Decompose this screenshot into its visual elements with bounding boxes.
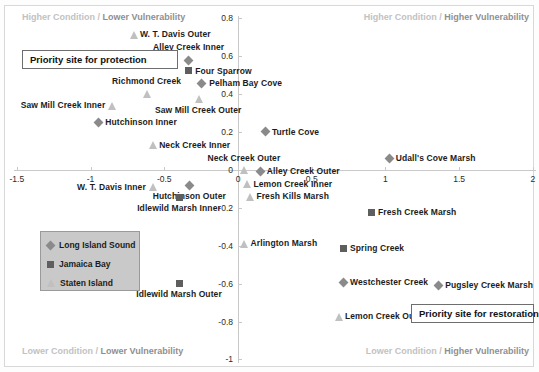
data-point-label: Pelham Bay Cove — [209, 78, 282, 88]
legend: Long Island SoundJamaica BayStaten Islan… — [40, 231, 140, 291]
data-point-label: W. T. Davis Outer — [140, 29, 211, 39]
annotation-protection: Priority site for protection — [22, 50, 178, 69]
legend-marker-triangle — [47, 279, 55, 287]
data-point-label: Saw Mill Creek Inner — [21, 100, 106, 110]
scatter-plot-figure: -1.5-1-0.500.511.520.80.60.40.20-0.2-0.4… — [0, 0, 539, 372]
x-tick-label: 1.5 — [453, 174, 465, 184]
data-point-label: Udall's Cove Marsh — [396, 153, 476, 163]
legend-label: Jamaica Bay — [59, 259, 111, 269]
y-tick-label: -0.8 — [218, 317, 233, 327]
data-point-label: Idlewild Marsh Inner — [137, 203, 221, 213]
x-tick-label: 1 — [383, 174, 388, 184]
y-tick-mark — [239, 56, 242, 57]
data-point-marker — [130, 31, 138, 39]
data-point-label: Richmond Creek — [112, 76, 181, 86]
x-tick-mark — [17, 167, 18, 170]
plot-area: -1.5-1-0.500.511.520.80.60.40.20-0.2-0.4… — [0, 0, 539, 372]
data-point-marker — [149, 141, 157, 149]
legend-item: Jamaica Bay — [47, 257, 111, 271]
data-point-label: Turtle Cove — [272, 127, 319, 137]
data-point-label: Pugsley Creek Marsh — [445, 280, 533, 290]
quadrant-label-condition: Lower Condition / — [22, 346, 101, 356]
y-tick-label: 0.6 — [221, 51, 233, 61]
y-tick-mark — [239, 322, 242, 323]
data-point-marker — [340, 245, 347, 252]
data-point-marker — [176, 280, 183, 287]
y-tick-label: 0.2 — [221, 127, 233, 137]
x-tick-mark — [533, 167, 534, 170]
data-point-label: Idlewild Marsh Outer — [136, 289, 222, 299]
y-tick-label: 0.4 — [221, 89, 233, 99]
x-tick-label: 0 — [236, 174, 241, 184]
legend-item: Long Island Sound — [47, 238, 136, 252]
quadrant-label-vulnerability: Higher Vulnerability — [444, 12, 529, 22]
data-point-label: Hutchinson Outer — [153, 191, 226, 201]
quadrant-label-top-left: Higher Condition / Lower Vulnerability — [22, 12, 185, 22]
data-point-marker — [246, 193, 254, 201]
legend-label: Staten Island — [60, 278, 113, 288]
data-point-marker — [368, 209, 375, 216]
data-point-marker — [176, 194, 183, 201]
data-point-marker — [184, 56, 194, 66]
legend-item: Staten Island — [47, 276, 113, 290]
x-tick-label: -0.5 — [157, 174, 172, 184]
data-point-label: Saw Mill Creek Outer — [155, 105, 242, 115]
y-tick-label: -0.4 — [218, 241, 233, 251]
data-point-marker — [143, 90, 151, 98]
data-point-marker — [255, 166, 265, 176]
data-point-label: Lemon Creek Inner — [253, 179, 332, 189]
y-tick-label: -0.6 — [218, 279, 233, 289]
quadrant-label-condition: Higher Condition / — [364, 12, 445, 22]
data-point-marker — [94, 117, 104, 127]
data-point-label: W. T. Davis Inner — [77, 182, 146, 192]
data-point-label: Fresh Kills Marsh — [256, 191, 329, 201]
data-point-marker — [260, 127, 270, 137]
data-point-label: Hutchinson Inner — [105, 117, 177, 127]
data-point-marker — [195, 95, 203, 103]
x-tick-mark — [164, 167, 165, 170]
x-tick-mark — [91, 167, 92, 170]
data-point-label: Westchester Creek — [350, 277, 428, 287]
data-point-marker — [108, 102, 116, 110]
x-tick-label: -1.5 — [10, 174, 25, 184]
quadrant-label-vulnerability: Lower Vulnerability — [101, 346, 184, 356]
data-point-label: Fresh Creek Marsh — [378, 207, 456, 217]
data-point-marker — [335, 313, 343, 321]
data-point-marker — [384, 153, 394, 163]
y-tick-label: 0 — [228, 165, 233, 175]
data-point-label: Four Sparrow — [195, 66, 251, 76]
y-tick-mark — [239, 208, 242, 209]
quadrant-label-condition: Lower Condition / — [366, 346, 445, 356]
data-point-label: Arlington Marsh — [251, 238, 318, 248]
y-tick-mark — [239, 94, 242, 95]
quadrant-label-bottom-right: Lower Condition / Higher Vulnerability — [366, 346, 529, 356]
data-point-marker — [434, 280, 444, 290]
x-tick-mark — [459, 167, 460, 170]
legend-marker-square — [47, 261, 54, 268]
data-point-label: Neck Creek Outer — [207, 153, 280, 163]
data-point-label: Alley Creek Outer — [267, 166, 340, 176]
data-point-marker — [243, 180, 251, 188]
x-tick-mark — [385, 167, 386, 170]
quadrant-label-vulnerability: Higher Vulnerability — [444, 346, 529, 356]
legend-marker-diamond — [46, 240, 56, 250]
quadrant-label-bottom-left: Lower Condition / Lower Vulnerability — [22, 346, 183, 356]
y-tick-mark — [239, 284, 242, 285]
data-point-marker — [240, 240, 248, 248]
y-tick-mark — [239, 132, 242, 133]
data-point-marker — [185, 67, 192, 74]
data-point-marker — [149, 183, 157, 191]
quadrant-label-condition: Higher Condition / — [22, 12, 103, 22]
quadrant-label-vulnerability: Lower Vulnerability — [103, 12, 186, 22]
y-tick-label: -1 — [225, 354, 233, 364]
x-tick-label: 2 — [530, 174, 535, 184]
legend-label: Long Island Sound — [59, 240, 136, 250]
y-tick-mark — [239, 359, 242, 360]
y-tick-mark — [239, 18, 242, 19]
data-point-marker — [338, 277, 348, 287]
data-point-marker — [184, 181, 194, 191]
data-point-marker — [240, 166, 248, 174]
data-point-label: Neck Creek Inner — [159, 140, 230, 150]
data-point-label: Spring Creek — [350, 243, 404, 253]
annotation-restoration: Priority site for restoration — [411, 304, 534, 323]
